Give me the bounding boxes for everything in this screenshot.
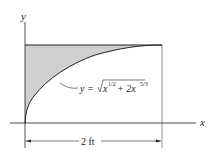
- equation-leader: [60, 83, 78, 88]
- x-axis-label: x: [199, 116, 205, 128]
- area-diagram: y x y = x 1/2 + 2x 5/3 2 ft: [0, 0, 219, 153]
- svg-text:y =: y =: [79, 83, 94, 94]
- svg-text:1/2: 1/2: [108, 81, 116, 87]
- svg-text:+ 2x: + 2x: [117, 83, 136, 94]
- dimension-line: 2 ft: [26, 136, 161, 147]
- y-axis-label: y: [20, 10, 26, 22]
- svg-text:5/3: 5/3: [140, 81, 148, 87]
- equation: y = x 1/2 + 2x 5/3: [79, 80, 148, 94]
- dimension-label: 2 ft: [81, 136, 95, 147]
